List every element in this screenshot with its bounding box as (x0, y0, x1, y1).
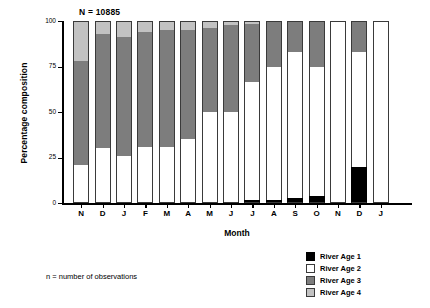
legend-item-4: River Age 4 (306, 286, 361, 298)
x-tick-5 (188, 204, 189, 208)
legend-swatch-icon-2 (306, 264, 315, 273)
bar-D-13 (351, 21, 367, 203)
legend-label-4: River Age 4 (320, 288, 361, 297)
bar-segment-river-age-4 (202, 21, 218, 28)
y-tick-label-100: 100 (36, 18, 56, 25)
x-tick-7 (231, 204, 232, 208)
bar-segment-river-age-1 (266, 200, 282, 203)
bar-J-2 (116, 21, 132, 203)
x-tick-label-5: A (179, 209, 197, 218)
bar-segment-river-age-3 (95, 34, 111, 149)
percentage-composition-chart: Percentage composition N = 10885 0255075… (0, 0, 430, 308)
legend-label-2: River Age 2 (320, 264, 361, 273)
y-tick-0 (58, 203, 62, 204)
bar-D-1 (95, 21, 111, 203)
bar-A-5 (180, 21, 196, 203)
bar-M-4 (159, 21, 175, 203)
legend-swatch-icon-3 (306, 276, 315, 285)
bar-segment-river-age-2 (95, 148, 111, 203)
bar-segment-river-age-2 (373, 21, 389, 203)
x-tick-12 (338, 204, 339, 208)
y-tick-label-50: 50 (36, 109, 56, 116)
x-tick-label-13: D (350, 209, 368, 218)
bar-segment-river-age-2 (244, 82, 260, 200)
bar-segment-river-age-3 (244, 24, 260, 82)
x-tick-0 (81, 204, 82, 208)
footnote: n = number of observations (46, 272, 137, 281)
bar-J-8 (244, 21, 260, 203)
bar-N-12 (330, 21, 346, 203)
x-tick-2 (124, 204, 125, 208)
x-tick-label-9: A (265, 209, 283, 218)
x-tick-8 (252, 204, 253, 208)
x-tick-13 (359, 204, 360, 208)
bar-segment-river-age-3 (202, 28, 218, 112)
bar-segment-river-age-2 (266, 67, 282, 201)
bar-M-6 (202, 21, 218, 203)
bar-N-0 (73, 21, 89, 203)
bar-segment-river-age-2 (287, 52, 303, 198)
y-tick-label-0: 0 (36, 200, 56, 207)
bar-segment-river-age-1 (309, 196, 325, 203)
bar-J-14 (373, 21, 389, 203)
bar-segment-river-age-1 (244, 200, 260, 203)
legend: River Age 1River Age 2River Age 3River A… (306, 250, 361, 298)
bar-segment-river-age-4 (244, 21, 260, 24)
y-axis-title: Percentage composition (19, 33, 29, 193)
bar-segment-river-age-4 (95, 21, 111, 34)
bar-segment-river-age-3 (351, 21, 367, 52)
x-axis-title: Month (62, 228, 412, 238)
x-tick-10 (295, 204, 296, 208)
bar-segment-river-age-2 (137, 147, 153, 203)
x-tick-label-11: O (308, 209, 326, 218)
x-tick-label-14: J (372, 209, 390, 218)
bar-segment-river-age-3 (180, 30, 196, 139)
bar-segment-river-age-1 (287, 198, 303, 203)
bar-segment-river-age-3 (159, 30, 175, 146)
legend-item-3: River Age 3 (306, 274, 361, 286)
y-tick-label-25: 25 (36, 154, 56, 161)
bar-segment-river-age-4 (137, 21, 153, 32)
x-tick-label-12: N (329, 209, 347, 218)
bar-segment-river-age-2 (159, 147, 175, 203)
bar-segment-river-age-3 (266, 21, 282, 67)
bar-segment-river-age-2 (202, 112, 218, 203)
legend-label-3: River Age 3 (320, 276, 361, 285)
x-tick-11 (317, 204, 318, 208)
x-tick-4 (167, 204, 168, 208)
bar-segment-river-age-3 (137, 32, 153, 147)
x-tick-label-10: S (286, 209, 304, 218)
bar-segment-river-age-2 (309, 67, 325, 196)
bar-F-3 (137, 21, 153, 203)
bar-segment-river-age-1 (223, 202, 239, 203)
bar-segment-river-age-4 (73, 21, 89, 61)
x-tick-label-6: M (201, 209, 219, 218)
bar-segment-river-age-4 (116, 21, 132, 37)
legend-swatch-icon-1 (306, 252, 315, 261)
bar-segment-river-age-2 (223, 112, 239, 202)
x-tick-14 (381, 204, 382, 208)
bar-segment-river-age-3 (287, 21, 303, 52)
legend-item-2: River Age 2 (306, 262, 361, 274)
bar-segment-river-age-2 (351, 52, 367, 167)
x-tick-label-1: D (94, 209, 112, 218)
x-tick-label-8: J (243, 209, 261, 218)
legend-swatch-icon-4 (306, 288, 315, 297)
bar-segment-river-age-3 (223, 25, 239, 112)
bar-segment-river-age-2 (330, 21, 346, 203)
x-tick-3 (145, 204, 146, 208)
bar-segment-river-age-4 (180, 21, 196, 30)
x-tick-6 (210, 204, 211, 208)
bar-segment-river-age-4 (159, 21, 175, 30)
bar-segment-river-age-3 (73, 61, 89, 165)
bar-A-9 (266, 21, 282, 203)
bar-S-10 (287, 21, 303, 203)
bar-segment-river-age-1 (351, 167, 367, 203)
bar-segment-river-age-2 (180, 139, 196, 203)
bar-group (62, 21, 412, 203)
bar-segment-river-age-3 (309, 21, 325, 67)
x-tick-label-0: N (72, 209, 90, 218)
x-tick-1 (103, 204, 104, 208)
x-tick-label-2: J (115, 209, 133, 218)
legend-label-1: River Age 1 (320, 252, 361, 261)
